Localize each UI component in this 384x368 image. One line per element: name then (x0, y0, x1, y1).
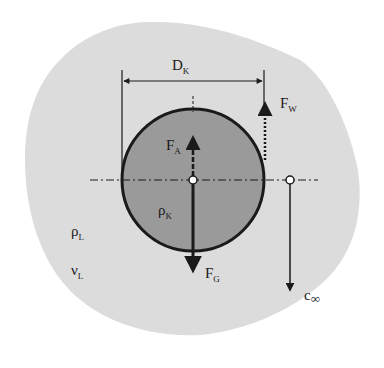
reference-point (286, 176, 294, 184)
sphere-forces-diagram: DK FW FA ρK FG ρL νL c∞ (0, 0, 384, 368)
sphere-center-point (189, 176, 197, 184)
